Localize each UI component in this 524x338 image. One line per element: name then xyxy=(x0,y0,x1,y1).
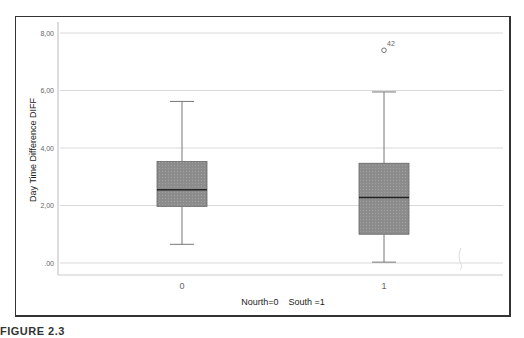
boxes: 42 xyxy=(157,40,409,262)
iqr-box xyxy=(157,162,207,207)
gridlines: .002,004,006,008,00 xyxy=(40,30,503,267)
x-tick-label: 0 xyxy=(179,281,184,291)
outlier-point xyxy=(382,48,387,53)
boxplot-chart: .002,004,006,008,00 42 01 Day Time Diffe… xyxy=(0,0,524,338)
figure-caption: FIGURE 2.3 xyxy=(0,325,65,337)
box-group-0 xyxy=(157,101,207,244)
y-tick-label: .00 xyxy=(44,260,54,267)
scan-artifact xyxy=(459,248,462,270)
x-tick-label: 1 xyxy=(381,281,386,291)
x-axis-label: Nourth=0 South =1 xyxy=(241,297,325,307)
y-tick-label: 6,00 xyxy=(40,87,54,94)
y-tick-label: 8,00 xyxy=(40,30,54,37)
outlier-label: 42 xyxy=(387,40,395,47)
box-group-1: 42 xyxy=(359,40,409,262)
y-tick-label: 2,00 xyxy=(40,202,54,209)
y-axis-label: Day Time Difference DIFF xyxy=(28,98,38,202)
y-tick-label: 4,00 xyxy=(40,145,54,152)
iqr-box xyxy=(359,163,409,234)
x-tick-labels: 01 xyxy=(179,281,386,291)
